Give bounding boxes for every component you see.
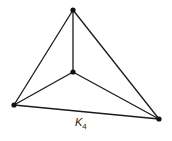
vertex-top: [70, 7, 75, 12]
edge-top-right: [73, 10, 159, 119]
vertex-right: [156, 116, 161, 121]
edge-top-left: [14, 10, 73, 105]
graph-label: K4: [75, 117, 87, 131]
vertices: [11, 7, 161, 121]
vertex-left: [11, 102, 16, 107]
graph-label-subscript: 4: [82, 122, 86, 131]
edges: [14, 10, 159, 119]
vertex-center: [70, 69, 75, 74]
edge-center-left: [14, 72, 73, 105]
